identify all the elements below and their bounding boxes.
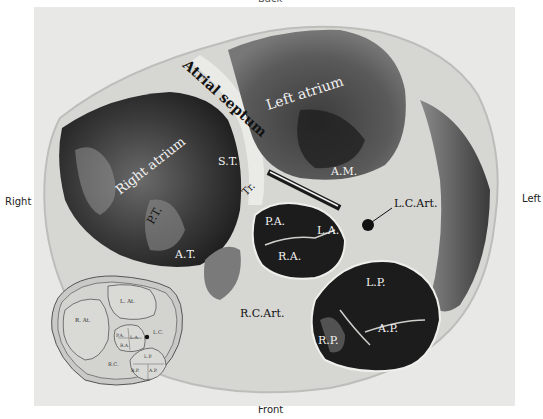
left-coronary-artery-ostium: [362, 219, 374, 231]
inset-schematic: L. At. R. At. P.A. L.A. R.A. L.C. R.C. L…: [52, 276, 183, 385]
label-pa: P.A.: [265, 215, 285, 228]
inset-label-rc: R.C.: [108, 361, 119, 367]
label-at: A.T.: [174, 248, 196, 261]
label-lp: L.P.: [366, 276, 385, 289]
heart-cross-section-photo: Atrial septum Left atrium Right atrium S…: [34, 7, 515, 406]
label-la: L.A.: [317, 224, 339, 237]
orientation-label-left: Left: [522, 193, 541, 204]
label-st: S.T.: [218, 155, 238, 168]
inset-label-pa: P.A.: [116, 333, 125, 338]
label-ap: A.P.: [377, 322, 398, 335]
inset-label-r-at: R. At.: [75, 317, 91, 323]
label-lc-art: L.C.Art.: [394, 197, 437, 210]
label-ra: R.A.: [278, 250, 301, 263]
orientation-label-back: Back: [258, 0, 282, 4]
inset-label-ra: R.A.: [120, 343, 130, 348]
inset-label-lp: L.P.: [144, 354, 153, 359]
inset-label-ap: A.P.: [148, 368, 158, 373]
orientation-label-right: Right: [5, 196, 31, 207]
inset-label-rp: R.P.: [131, 368, 140, 373]
label-am: A.M.: [330, 165, 357, 178]
inset-label-l-at: L. At.: [120, 298, 135, 304]
inset-label-lc: L.C.: [153, 329, 164, 335]
label-rc-art: R.C.Art.: [240, 307, 284, 320]
inset-label-la: L.A.: [130, 335, 140, 340]
label-rp: R.P.: [318, 334, 338, 347]
